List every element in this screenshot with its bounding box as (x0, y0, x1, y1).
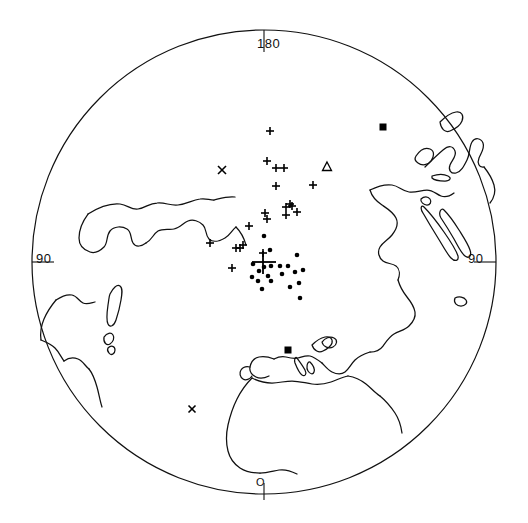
marker-plus (272, 182, 280, 190)
marker-plus (266, 127, 274, 135)
coastline-north-america-east (236, 227, 246, 245)
coastline-middle-east (322, 352, 370, 374)
marker-group-x (189, 166, 227, 413)
coastline-eurasia-bay (421, 197, 431, 205)
marker-dot (278, 264, 283, 269)
marker-plus (228, 264, 236, 272)
coastline-greece (307, 362, 314, 374)
coastline-pacific-nw (56, 295, 95, 304)
marker-dot (295, 253, 300, 258)
marker-dot (286, 264, 291, 269)
coastline-island-strip (432, 175, 450, 182)
coastline-africa-east (380, 396, 402, 433)
coastline-alaska (79, 214, 146, 253)
marker-plus (272, 164, 280, 172)
marker-dot (268, 248, 273, 253)
marker-plus (245, 222, 253, 230)
marker-plus (309, 181, 317, 189)
coastline-turkey (312, 337, 332, 352)
marker-dot (298, 296, 303, 301)
longitude-label-90-west: 90 (36, 251, 51, 266)
marker-dot (301, 268, 306, 273)
polar-map-figure: 180 90 90 O (0, 0, 528, 523)
marker-dot (269, 264, 274, 269)
longitude-label-90-east: 90 (468, 251, 483, 266)
longitude-label-0: O (256, 476, 265, 488)
marker-dot (260, 287, 265, 292)
coastline-africa-northeast (348, 376, 380, 396)
marker-dot (293, 270, 298, 275)
coastline-korea-japan (454, 297, 466, 306)
marker-plus (280, 164, 288, 172)
marker-dot (269, 279, 274, 284)
coastline-africa-south (260, 470, 297, 474)
marker-square (380, 124, 387, 131)
marker-triangle (323, 162, 332, 171)
marker-x (189, 406, 196, 413)
marker-x (218, 166, 226, 174)
marker-dot (262, 265, 267, 270)
marker-group-plus (206, 127, 317, 272)
marker-dot (266, 274, 271, 279)
coastline-baffin (107, 285, 122, 326)
coastline-ellesmere (415, 148, 434, 164)
marker-dot (257, 269, 262, 274)
marker-pole-cross (252, 251, 276, 274)
marker-group-square (285, 124, 387, 354)
marker-dot (250, 275, 255, 280)
coastline-hudson-bay (146, 220, 236, 243)
marker-group-dot (250, 234, 306, 301)
coastline-mexico (64, 358, 89, 369)
marker-dot (262, 234, 267, 239)
coastline-central-america (89, 369, 102, 407)
marker-square (285, 347, 292, 354)
marker-dot (288, 285, 293, 290)
marker-dot (256, 279, 261, 284)
coastline-east-asia (370, 280, 415, 352)
coastline-siberia (370, 190, 399, 280)
map-canvas (0, 0, 528, 523)
coastline-iberia (250, 357, 274, 378)
coastline-eurasia-arctic (370, 185, 454, 197)
marker-plus (282, 211, 290, 219)
coastline-group (41, 112, 495, 474)
coastline-scandinavia (484, 167, 495, 203)
coastline-north-america (88, 199, 214, 214)
coastline-italy (295, 357, 306, 375)
coastline-africa-west (227, 378, 261, 473)
marker-group-triangle (323, 162, 332, 171)
marker-dot (297, 281, 302, 286)
coastline-small-island (107, 346, 115, 354)
coastline-arctic-canada (214, 197, 235, 200)
marker-dot (280, 272, 285, 277)
coastline-victoria-island (104, 333, 114, 344)
longitude-label-180: 180 (257, 36, 280, 51)
marker-plus (293, 208, 301, 216)
marker-plus (206, 239, 214, 247)
marker-dot (251, 262, 256, 267)
marker-plus (263, 157, 271, 165)
